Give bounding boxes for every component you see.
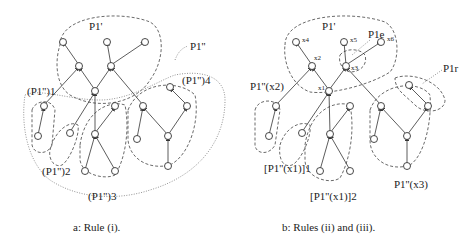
- region-sub3: [80, 104, 127, 177]
- label-x1: x1: [318, 84, 326, 92]
- caption-b: b: Rules (ii) and (iii).: [282, 221, 375, 234]
- panel-a: P1' P1'' (P1'')1 (P1'')2 (P1'')3 (P1'')4…: [24, 16, 225, 234]
- region-px1-1: [280, 124, 311, 166]
- label-p1-prime-b: P1': [322, 20, 336, 32]
- label-px3: P1''(x3): [394, 178, 428, 191]
- region-px1-2: [305, 104, 352, 181]
- label-sub3: (P1'')3: [88, 190, 117, 203]
- nodes-a: [35, 39, 191, 175]
- panel-b: x4 x5 x6 x2 x3 x1 P1' P1e P1r P1''(x2) […: [250, 16, 459, 234]
- caption-a: a: Rule (i).: [73, 221, 121, 234]
- label-x3-top: x3: [351, 64, 359, 72]
- label-sub2: (P1'')2: [42, 165, 70, 178]
- label-p1r: P1r: [443, 62, 459, 74]
- region-sub2: [50, 124, 79, 166]
- label-p1e: P1e: [368, 28, 385, 40]
- region-sub4: [128, 85, 196, 166]
- label-px1-1: [P1''(x1)]1: [264, 162, 311, 175]
- label-x4: x4: [302, 36, 310, 44]
- label-sub1: (P1'')1: [27, 85, 55, 98]
- diagram-canvas: P1' P1'' (P1'')1 (P1'')2 (P1'')3 (P1'')4…: [0, 0, 469, 240]
- label-sub4: (P1'')4: [182, 74, 211, 87]
- label-x6: x6: [387, 35, 395, 43]
- label-x2: x2: [314, 54, 322, 62]
- label-px2: P1''(x2): [250, 80, 284, 93]
- label-x5: x5: [350, 36, 358, 44]
- region-p1r: [395, 76, 445, 111]
- label-p1-double-prime-a: P1'': [190, 40, 206, 52]
- label-px1-2: [P1''(x1)]2: [310, 190, 357, 203]
- label-p1-prime-a: P1': [89, 20, 103, 32]
